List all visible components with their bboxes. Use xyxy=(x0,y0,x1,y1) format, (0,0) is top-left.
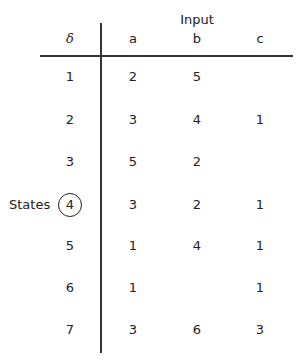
cell-b: 4 xyxy=(193,112,201,128)
delta-corner-label: δ xyxy=(66,31,74,47)
column-header-b: b xyxy=(193,31,201,47)
cell-b: 2 xyxy=(193,154,201,170)
cell-c: 3 xyxy=(256,322,264,338)
state-cell: 1 xyxy=(66,69,74,85)
cell-a: 1 xyxy=(129,238,137,254)
cell-a: 3 xyxy=(129,197,137,213)
input-title: Input xyxy=(180,12,214,28)
states-label: States xyxy=(9,197,50,213)
state-cell: 6 xyxy=(66,280,74,296)
column-header-c: c xyxy=(256,31,263,47)
cell-a: 3 xyxy=(129,322,137,338)
cell-c: 1 xyxy=(256,280,264,296)
cell-a: 2 xyxy=(129,69,137,85)
cell-b: 4 xyxy=(193,238,201,254)
cell-b: 5 xyxy=(193,69,201,85)
cell-b: 6 xyxy=(193,322,201,338)
cell-c: 1 xyxy=(256,238,264,254)
state-cell: 5 xyxy=(66,238,74,254)
state-cell: 3 xyxy=(66,154,74,170)
column-header-a: a xyxy=(129,31,137,47)
cell-a: 5 xyxy=(129,154,137,170)
cell-a: 3 xyxy=(129,112,137,128)
horizontal-divider xyxy=(40,55,293,57)
state-cell: 2 xyxy=(66,112,74,128)
cell-b: 2 xyxy=(193,197,201,213)
vertical-divider xyxy=(100,23,102,353)
cell-c: 1 xyxy=(256,197,264,213)
cell-c: 1 xyxy=(256,112,264,128)
state-cell: 7 xyxy=(66,322,74,338)
cell-a: 1 xyxy=(129,280,137,296)
state-cell-highlighted: 4 xyxy=(66,197,74,213)
